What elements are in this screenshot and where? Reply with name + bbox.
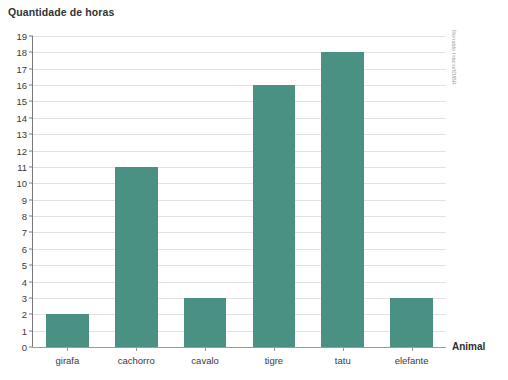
x-axis-tick-mark (343, 347, 344, 351)
y-axis-tick-label: 11 (17, 161, 27, 172)
y-axis-tick-label: 17 (16, 63, 27, 74)
y-axis-tick-label: 1 (22, 325, 27, 336)
y-axis-tick-label: 10 (16, 178, 27, 189)
y-axis-tick-label: 8 (22, 211, 27, 222)
bar-girafa (46, 314, 89, 347)
bar-chart-figure: Quantidade de horas 01234567891011121314… (0, 0, 508, 380)
plot-area: 012345678910111213141516171819 girafacac… (32, 36, 446, 347)
x-axis-tick-label-elefante: elefante (395, 355, 429, 366)
bar-tatu (321, 52, 364, 347)
x-axis-tick-label-tigre: tigre (265, 355, 283, 366)
y-axis-tick-label: 13 (16, 129, 27, 140)
x-axis-tick-label-girafa: girafa (56, 355, 80, 366)
bar-cavalo (184, 298, 227, 347)
y-axis-tick-label: 0 (22, 342, 27, 353)
x-axis-tick-mark (136, 347, 137, 351)
y-axis-tick-label: 12 (16, 145, 27, 156)
y-axis-tick-label: 6 (22, 243, 27, 254)
x-axis-tick-mark (412, 347, 413, 351)
x-axis-tick-label-tatu: tatu (335, 355, 351, 366)
bar-elefante (390, 298, 433, 347)
image-credit-label: Ronaldo Inácio/ID/BR (451, 30, 457, 85)
x-axis-title: Animal (452, 341, 485, 352)
y-axis-tick-label: 5 (22, 260, 27, 271)
y-axis-tick-label: 19 (16, 31, 27, 42)
gridline (33, 347, 446, 348)
y-axis-tick-label: 2 (22, 309, 27, 320)
y-axis-tick-label: 4 (22, 276, 27, 287)
x-axis-tick-mark (205, 347, 206, 351)
x-axis-tick-mark (274, 347, 275, 351)
x-axis-tick-label-cachorro: cachorro (118, 355, 155, 366)
y-axis-tick-label: 18 (16, 47, 27, 58)
y-axis-tick-label: 3 (22, 292, 27, 303)
y-axis-tick-label: 16 (16, 80, 27, 91)
y-axis-tick-label: 15 (16, 96, 27, 107)
bar-tigre (253, 85, 296, 347)
x-axis-tick-mark (67, 347, 68, 351)
y-axis-tick-label: 7 (22, 227, 27, 238)
bar-cachorro (115, 167, 158, 347)
y-axis-tick-label: 9 (22, 194, 27, 205)
y-axis-tick-label: 14 (16, 112, 27, 123)
bars-layer (33, 36, 446, 347)
x-axis-tick-label-cavalo: cavalo (191, 355, 218, 366)
chart-title: Quantidade de horas (8, 6, 114, 18)
